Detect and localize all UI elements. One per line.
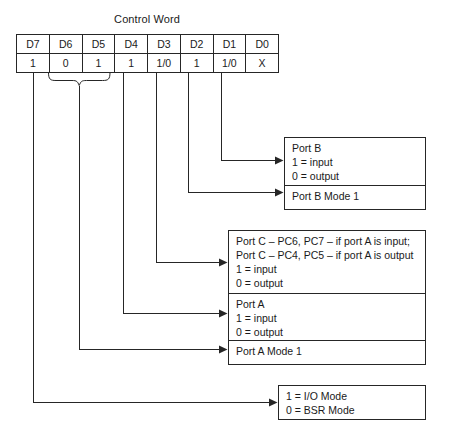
port-b-title: Port B: [292, 141, 419, 155]
port-c-line-2: Port C – PC4, PC5 – if port A is output: [236, 248, 419, 262]
connector-d6-d5-to-port-a-mode: [80, 86, 222, 350]
port-a-input-line: 1 = input: [236, 311, 419, 325]
brace-d6-d5: [49, 73, 111, 86]
control-word-diagram: Control Word D7 D6 D5 D4 D3 D2 D1 D0 1 0…: [0, 0, 450, 429]
io-mode-line: 1 = I/O Mode: [286, 389, 419, 403]
port-b-input-line: 1 = input: [292, 155, 419, 169]
port-a-description: Port A 1 = input 0 = output: [229, 293, 425, 340]
arrowhead-mode-select: [269, 399, 278, 407]
port-a-output-line: 0 = output: [236, 325, 419, 339]
arrowhead-port-a: [219, 310, 228, 318]
bsr-mode-line: 0 = BSR Mode: [286, 403, 419, 417]
port-b-box: Port B 1 = input 0 = output Port B Mode …: [284, 137, 426, 210]
port-b-mode-line: Port B Mode 1: [292, 189, 419, 203]
mode-select-box: 1 = I/O Mode 0 = BSR Mode: [278, 385, 426, 420]
port-a-mode-description: Port A Mode 1: [229, 340, 425, 364]
arrowhead-port-b: [275, 157, 284, 165]
port-a-mode-line: Port A Mode 1: [236, 344, 419, 358]
port-c-output-line: 0 = output: [236, 276, 419, 290]
port-b-description: Port B 1 = input 0 = output: [285, 138, 425, 185]
mode-select-description: 1 = I/O Mode 0 = BSR Mode: [279, 386, 425, 419]
connector-d1-to-port-b: [222, 73, 278, 161]
port-c-line-1: Port C – PC6, PC7 – if port A is input;: [236, 234, 419, 248]
port-c-a-box: Port C – PC6, PC7 – if port A is input; …: [228, 230, 426, 365]
port-b-output-line: 0 = output: [292, 169, 419, 183]
arrowhead-port-b-mode: [275, 189, 284, 197]
port-a-title: Port A: [236, 297, 419, 311]
connector-d2-to-port-b-mode: [189, 73, 278, 193]
arrowhead-port-a-mode: [219, 346, 228, 354]
port-b-mode-description: Port B Mode 1: [285, 185, 425, 209]
port-c-description: Port C – PC6, PC7 – if port A is input; …: [229, 231, 425, 293]
port-c-input-line: 1 = input: [236, 262, 419, 276]
arrowhead-port-c: [219, 259, 228, 267]
